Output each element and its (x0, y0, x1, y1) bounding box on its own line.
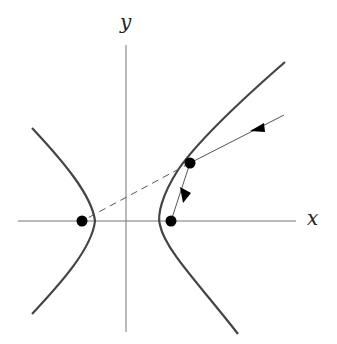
left-focus-point (77, 216, 88, 227)
reflected-arrow-icon (180, 187, 191, 203)
incoming-arrow-icon (250, 123, 265, 132)
x-axis-label: x (307, 206, 318, 230)
hyperbola-diagram (0, 0, 337, 344)
reflection-point (185, 158, 196, 169)
y-axis-label: y (120, 10, 131, 34)
right-focus-point (166, 216, 177, 227)
